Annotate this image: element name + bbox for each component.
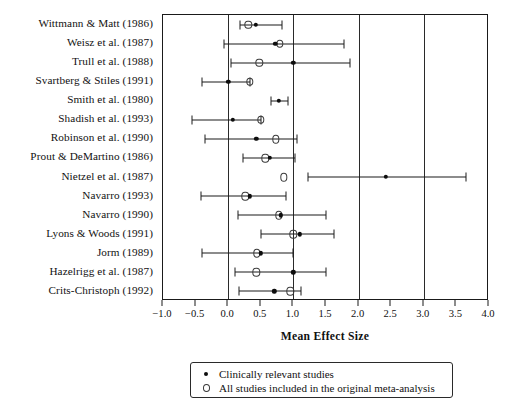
study-label: Robinson et al. (1990) [0, 128, 158, 147]
confidence-interval-line [205, 138, 296, 139]
confidence-interval-cap [285, 192, 286, 201]
confidence-interval-cap [223, 39, 224, 48]
study-label: Navarro (1993) [0, 186, 158, 205]
forest-plot: Wittmann & Matt (1986)Weisz et al. (1987… [0, 0, 527, 405]
data-row [163, 15, 487, 34]
axis-tick [194, 300, 195, 306]
study-label: Prout & DeMartino (1986) [0, 147, 158, 166]
confidence-interval-cap [205, 134, 206, 143]
study-label: Shadish et al. (1993) [0, 109, 158, 128]
confidence-interval-cap [296, 134, 297, 143]
confidence-interval-cap [242, 153, 243, 162]
data-row [163, 206, 487, 225]
axis-tick [325, 300, 326, 306]
confidence-interval-cap [293, 249, 294, 258]
filled-circle-marker [259, 251, 263, 255]
confidence-interval-cap [231, 58, 232, 67]
study-label: Hazelrigg et al. (1987) [0, 262, 158, 281]
confidence-interval-cap [239, 20, 240, 29]
filled-circle-marker [291, 270, 295, 274]
study-label: Trull et al. (1988) [0, 52, 158, 71]
data-row [163, 282, 487, 301]
open-circle-marker [257, 116, 264, 125]
legend-item-all-studies: All studies included in the original met… [199, 381, 444, 395]
legend-item-label: All studies included in the original met… [219, 382, 435, 394]
plot-area [162, 14, 488, 300]
axis-tick-label: 3.5 [449, 308, 462, 319]
confidence-interval-line [235, 272, 326, 273]
confidence-interval-cap [237, 211, 238, 220]
confidence-interval-cap [200, 192, 201, 201]
data-row [163, 34, 487, 53]
open-circle-marker [286, 287, 293, 296]
data-row [163, 168, 487, 187]
filled-circle-marker [268, 156, 272, 160]
confidence-interval-cap [202, 249, 203, 258]
filled-circle-marker [253, 22, 257, 26]
open-circle-marker [276, 39, 283, 48]
axis-tick [259, 300, 260, 306]
confidence-interval-cap [234, 268, 235, 277]
data-row [163, 225, 487, 244]
confidence-interval-line [224, 43, 345, 44]
open-circle-icon [199, 384, 213, 392]
filled-circle-marker [254, 137, 258, 141]
axis-tick [455, 300, 456, 306]
data-row [163, 129, 487, 148]
legend-item-clinical: Clinically relevant studies [199, 367, 444, 381]
study-label: Jorm (1989) [0, 243, 158, 262]
study-label: Wittmann & Matt (1986) [0, 14, 158, 33]
study-label: Lyons & Woods (1991) [0, 224, 158, 243]
confidence-interval-cap [287, 96, 288, 105]
axis-tick-label: 4.0 [481, 308, 494, 319]
filled-circle-marker [231, 118, 235, 122]
filled-circle-marker [298, 232, 302, 236]
open-circle-marker [280, 173, 287, 182]
confidence-interval-cap [350, 58, 351, 67]
study-label-column: Wittmann & Matt (1986)Weisz et al. (1987… [0, 14, 158, 300]
study-label: Svartberg & Stiles (1991) [0, 71, 158, 90]
study-label: Weisz et al. (1987) [0, 33, 158, 52]
filled-circle-marker [291, 60, 295, 64]
open-circle-marker [253, 268, 260, 277]
axis-tick [162, 300, 163, 306]
study-label: Nietzel et al. (1987) [0, 167, 158, 186]
confidence-interval-cap [271, 96, 272, 105]
filled-circle-icon [199, 372, 213, 376]
axis-tick-label: 2.5 [384, 308, 397, 319]
confidence-interval-cap [301, 287, 302, 296]
study-label: Navarro (1990) [0, 205, 158, 224]
confidence-interval-cap [326, 211, 327, 220]
data-row [163, 110, 487, 129]
axis-tick [292, 300, 293, 306]
data-row [163, 91, 487, 110]
axis-tick [488, 300, 489, 306]
filled-circle-marker [277, 99, 281, 103]
axis-tick-label: 0.5 [253, 308, 266, 319]
data-row [163, 263, 487, 282]
x-axis-title: Mean Effect Size [162, 330, 488, 343]
x-axis: −1.0−0.50.00.51.01.52.02.53.03.54.0 [162, 300, 488, 301]
legend-item-label: Clinically relevant studies [219, 368, 334, 380]
study-label: Smith et al. (1980) [0, 90, 158, 109]
filled-circle-marker [248, 194, 252, 198]
data-row [163, 53, 487, 72]
filled-circle-marker [384, 175, 388, 179]
axis-tick-label: 1.0 [286, 308, 299, 319]
axis-tick-label: 3.0 [416, 308, 429, 319]
axis-tick-label: 2.0 [351, 308, 364, 319]
confidence-interval-cap [281, 20, 282, 29]
axis-tick-label: −0.5 [185, 308, 204, 319]
axis-tick-label: 0.0 [221, 308, 234, 319]
data-row [163, 244, 487, 263]
confidence-interval-line [202, 253, 293, 254]
data-row [163, 187, 487, 206]
confidence-interval-cap [307, 173, 308, 182]
open-circle-marker [246, 77, 253, 86]
filled-circle-marker [226, 80, 230, 84]
data-row [163, 148, 487, 167]
confidence-interval-cap [192, 115, 193, 124]
axis-tick-label: −1.0 [152, 308, 171, 319]
confidence-interval-cap [344, 39, 345, 48]
filled-circle-marker [272, 289, 276, 293]
